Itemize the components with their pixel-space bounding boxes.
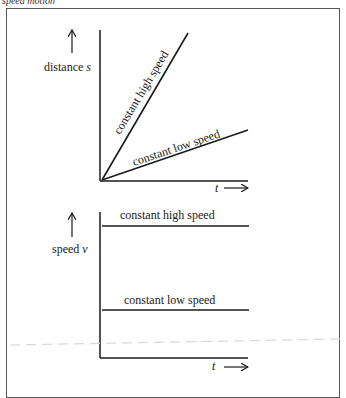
distance-time-chart: distance s constant high speed constant … (44, 30, 248, 195)
high-speed-label: constant high speed (111, 48, 172, 136)
low-speed-label: constant low speed (131, 127, 222, 169)
scan-artifact-line (10, 339, 340, 345)
high-speed-label: constant high speed (120, 208, 215, 222)
y-axis-label: distance s (44, 60, 91, 74)
y-axis-label: speed v (52, 242, 88, 256)
low-speed-label: constant low speed (124, 293, 215, 307)
x-axis-label: t (212, 359, 216, 373)
speed-time-chart: speed v constant high speed constant low… (52, 208, 249, 373)
x-axis-label: t (215, 181, 219, 195)
